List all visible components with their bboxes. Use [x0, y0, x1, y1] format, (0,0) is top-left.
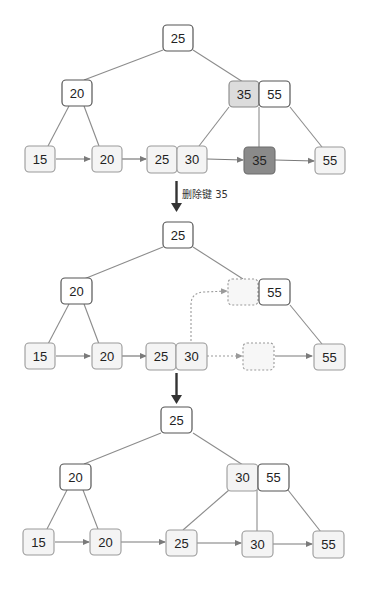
edge	[84, 50, 163, 80]
edge	[48, 106, 69, 146]
node-key: 20	[100, 349, 114, 364]
node-key: 55	[323, 153, 337, 168]
internal-node-left: 20	[62, 80, 92, 106]
node-key: 30	[185, 152, 199, 167]
node-key: 55	[322, 350, 336, 365]
leaf-node: 55	[314, 344, 345, 370]
leaf-node: 25 30	[147, 146, 207, 173]
edge	[290, 305, 322, 344]
edge	[193, 247, 243, 279]
step-arrow-delete: 删除键 35	[171, 181, 228, 212]
leaf-node: 15	[25, 343, 55, 369]
edge	[193, 50, 243, 82]
node-key: 25	[171, 228, 185, 243]
node-key: 55	[267, 285, 281, 300]
step-label: 删除键 35	[182, 188, 228, 200]
node-key: 15	[31, 535, 45, 550]
node-key: 20	[98, 535, 112, 550]
node-key: 15	[33, 152, 47, 167]
edge	[183, 490, 229, 530]
leaf-link-arrow	[275, 160, 314, 161]
deleted-leaf-node: 35	[244, 147, 275, 174]
leaf-node: 15	[23, 529, 54, 555]
internal-node-left: 20	[60, 464, 91, 490]
edge	[84, 247, 163, 279]
dotted-move-arrow	[191, 291, 227, 345]
node-key: 30	[184, 349, 198, 364]
node-key: 20	[100, 152, 114, 167]
edge	[193, 433, 243, 465]
internal-node-left: 20	[61, 278, 92, 304]
edge	[288, 490, 321, 532]
edge	[83, 490, 98, 529]
node-key: 25	[169, 413, 183, 428]
step-arrow-rebalance	[171, 373, 182, 404]
leaf-node: 20	[90, 529, 121, 555]
internal-node-right: 35 55	[229, 81, 290, 107]
leaf-node: 20	[92, 343, 122, 369]
node-key: 25	[174, 536, 188, 551]
empty-key-slot	[228, 279, 258, 305]
leaf-node: 25	[166, 530, 197, 556]
node-key: 20	[70, 86, 84, 101]
edge	[47, 490, 67, 529]
edge	[84, 106, 99, 146]
root-node: 25	[163, 222, 193, 248]
root-node: 25	[163, 25, 193, 51]
empty-leaf-node	[243, 343, 274, 370]
stage-rebalanced: 25 20 30 55 15 20 25 30 55	[23, 407, 344, 558]
internal-node-right: 55	[228, 279, 290, 305]
leaf-node: 15	[25, 146, 55, 172]
internal-node-right: 30 55	[227, 464, 289, 491]
leaf-node: 55	[315, 147, 345, 174]
node-key: 55	[267, 87, 281, 102]
bplus-tree-diagram: 25 20 35 55 15 20 25 30 35	[0, 0, 366, 596]
edge	[199, 107, 229, 146]
edge	[48, 304, 69, 344]
node-key: 20	[69, 284, 83, 299]
stage-before: 25 20 35 55 15 20 25 30 35	[25, 25, 345, 174]
edge	[290, 107, 322, 147]
node-key: 20	[68, 470, 82, 485]
node-key: 15	[33, 349, 47, 364]
node-key: 30	[250, 537, 264, 552]
leaf-node: 55	[313, 531, 344, 558]
edge	[84, 433, 161, 464]
node-key: 25	[155, 152, 169, 167]
node-key: 35	[237, 87, 251, 102]
edge	[84, 304, 99, 344]
node-key: 55	[321, 537, 335, 552]
leaf-node: 25 30	[146, 343, 207, 370]
node-key: 25	[171, 31, 185, 46]
node-key: 35	[252, 153, 266, 168]
node-key: 55	[266, 470, 280, 485]
leaf-node: 20	[92, 146, 122, 172]
leaf-node: 30	[242, 531, 273, 557]
root-node: 25	[161, 407, 192, 433]
node-key: 30	[235, 470, 249, 485]
node-key: 25	[154, 349, 168, 364]
stage-after-delete: 25 20 55 15 20 25 30 55	[25, 222, 345, 370]
leaf-link-arrow	[207, 159, 243, 160]
